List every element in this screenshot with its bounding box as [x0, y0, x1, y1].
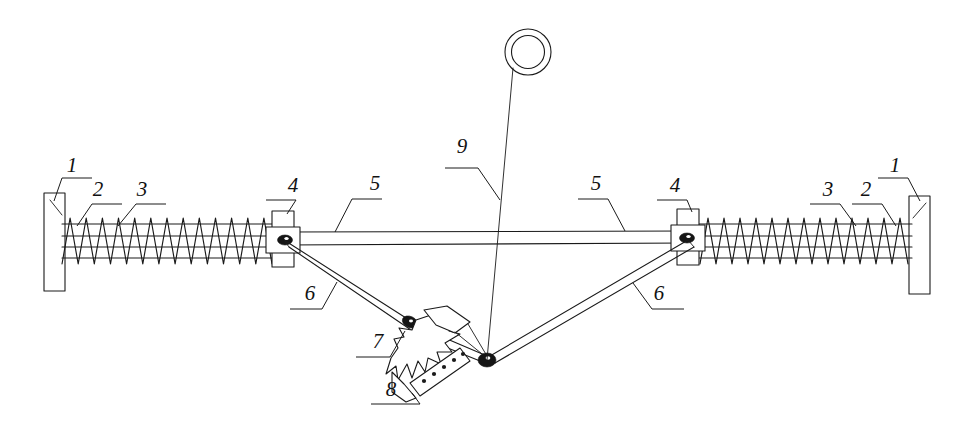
callout-label-3-left: 3: [136, 177, 148, 201]
callout-label-3-right: 3: [822, 177, 834, 201]
callout-label-6-left: 6: [305, 281, 316, 305]
spring-outer-right: [700, 218, 908, 264]
end-mounting-plate-left: [44, 193, 65, 291]
diagram-canvas: 1 2 3 4 5 9 5 4 3 2 1 6 6 7 8: [0, 0, 961, 436]
technical-diagram: 1 2 3 4 5 9 5 4 3 2 1 6 6 7 8: [0, 0, 961, 436]
callout-leaders: [54, 168, 920, 404]
main-horizontal-beam: [283, 231, 690, 245]
callout-label-4-left: 4: [288, 173, 299, 197]
callout-label-4-right: 4: [670, 173, 681, 197]
callout-label-5-right: 5: [591, 171, 602, 195]
callout-label-8: 8: [386, 377, 397, 401]
end-mounting-plate-right: [909, 196, 930, 294]
callout-label-2-left: 2: [93, 177, 104, 201]
toothed-gripping-jaw: [386, 306, 487, 402]
spring-outer-left: [62, 218, 272, 264]
callout-label-2-right: 2: [861, 177, 872, 201]
callout-label-9: 9: [457, 134, 468, 158]
slider-block-right: [671, 209, 705, 265]
callout-label-7: 7: [373, 329, 385, 353]
callout-label-1-left: 1: [67, 153, 78, 177]
callout-label-6-right: 6: [654, 281, 665, 305]
callout-label-1-right: 1: [890, 153, 901, 177]
callout-label-5-left: 5: [370, 171, 381, 195]
